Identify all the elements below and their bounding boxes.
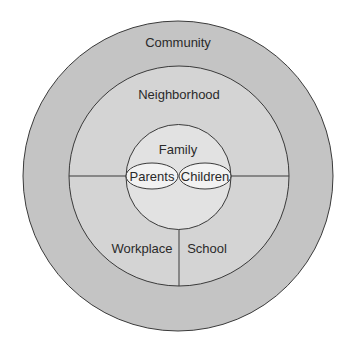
neighborhood-label: Neighborhood <box>138 87 220 102</box>
school-label: School <box>187 241 227 256</box>
children-label: Children <box>181 169 229 184</box>
parents-label: Parents <box>130 169 175 184</box>
ecological-diagram: Community Neighborhood Family Parents Ch… <box>0 0 349 343</box>
community-label: Community <box>145 35 211 50</box>
workplace-label: Workplace <box>111 241 172 256</box>
family-label: Family <box>159 142 198 157</box>
